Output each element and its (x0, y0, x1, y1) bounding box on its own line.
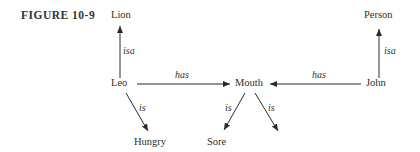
node-leo: Leo (111, 77, 127, 88)
label-mouth-sore: is (225, 102, 232, 113)
node-john: John (366, 77, 386, 88)
label-john-mouth: has (312, 69, 326, 80)
node-lion: Lion (111, 9, 131, 20)
node-person: Person (364, 9, 393, 20)
node-mouth: Mouth (235, 77, 263, 88)
node-sore: Sore (207, 136, 226, 147)
label-leo-mouth: has (175, 69, 189, 80)
label-mouth-blank: is (268, 102, 275, 113)
label-leo-lion: isa (123, 45, 135, 56)
semantic-network-edges (0, 0, 420, 152)
label-leo-hungry: is (139, 102, 146, 113)
label-john-person: isa (384, 45, 396, 56)
node-hungry: Hungry (134, 136, 166, 147)
